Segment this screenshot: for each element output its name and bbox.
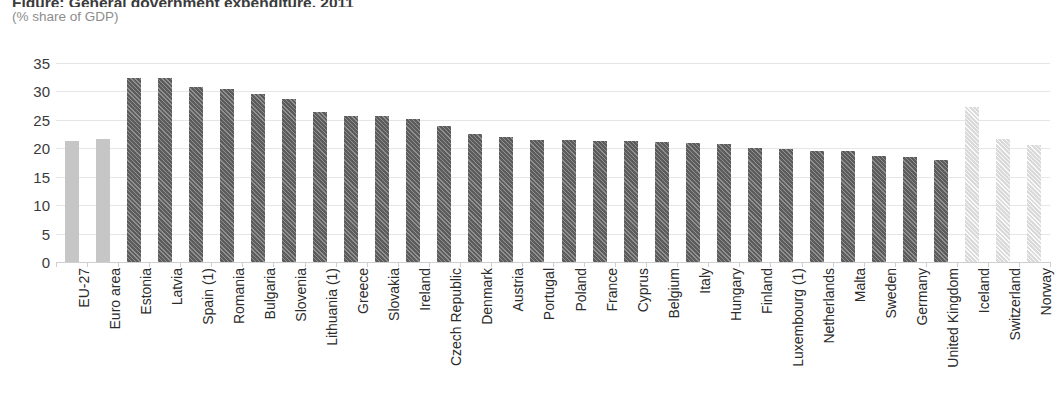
x-tickmark [895,262,896,267]
x-tickmark [802,262,803,267]
x-axis-label-text: Switzerland [1008,268,1022,340]
x-axis-label-text: Norway [1039,268,1053,315]
bar [810,151,824,262]
x-tickmark [149,262,150,267]
x-tickmark [305,262,306,267]
bar [282,99,296,262]
bar [313,112,327,262]
x-axis-label-text: Euro area [108,268,122,329]
x-axis-label: Slovenia [294,268,308,322]
y-tick-label-25: 25 [4,112,50,127]
x-axis-label: Portugal [542,268,556,320]
x-tickmark [522,262,523,267]
x-axis-label-text: Finland [760,268,774,314]
x-axis-label: Czech Republic [449,268,463,366]
x-axis-label: Norway [1039,268,1053,315]
y-tick-label-30: 30 [4,84,50,99]
x-axis-label-text: Portugal [542,268,556,320]
x-tickmark [273,262,274,267]
x-axis-label-text: Czech Republic [449,268,463,366]
x-axis-label-text: Luxembourg (1) [791,268,805,367]
x-axis-label: Finland [760,268,774,314]
bar [624,141,638,262]
x-axis-label-text: Italy [698,268,712,294]
x-tickmark [988,262,989,267]
x-axis-label: Euro area [108,268,122,329]
x-axis-label: Austria [511,268,525,312]
x-tickmark [367,262,368,267]
x-axis-label: Hungary [729,268,743,321]
x-axis-label-text: Ireland [418,268,432,311]
x-axis-label-text: Estonia [139,268,153,315]
bar [406,119,420,262]
x-tickmark [926,262,927,267]
x-tickmark [833,262,834,267]
x-tickmark [677,262,678,267]
y-tick-label-35: 35 [4,56,50,71]
x-axis-label: Denmark [480,268,494,325]
x-axis-label: United Kingdom [946,268,960,368]
x-tickmark [336,262,337,267]
x-axis-label-text: Malta [853,268,867,302]
y-tick-label-20: 20 [4,141,50,156]
bar [375,116,389,262]
bar [717,144,731,262]
x-tickmark [242,262,243,267]
x-axis-label: Cyprus [636,268,650,312]
y-tick-label-5: 5 [4,226,50,241]
y-axis: 05101520253035 [0,63,50,262]
x-tickmark [118,262,119,267]
bar [189,87,203,262]
chart-subtitle: (% share of GDP) [12,9,1012,25]
bar [220,89,234,262]
x-axis-label-text: Poland [574,268,588,312]
y-tick-label-0: 0 [4,255,50,270]
x-axis-label-text: United Kingdom [946,268,960,368]
x-axis-label: EU-27 [77,268,91,308]
x-axis-label: France [605,268,619,312]
bar [344,116,358,262]
x-tickmark [708,262,709,267]
x-tickmark [56,262,57,267]
x-axis-label: Bulgaria [263,268,277,319]
x-tickmark [739,262,740,267]
bar [437,126,451,262]
x-axis-label-text: Greece [356,268,370,314]
bar [996,139,1010,262]
bar [65,141,79,262]
x-axis-label-text: France [605,268,619,312]
x-axis-label: Germany [915,268,929,326]
x-axis-label: Iceland [977,268,991,313]
bar-chart: Figure: General government expenditure, … [0,0,1060,410]
x-tickmark [1050,262,1051,267]
bar [530,140,544,262]
chart-title-block: Figure: General government expenditure, … [12,0,1012,25]
bar [872,156,886,262]
x-tickmark [211,262,212,267]
x-tickmark [87,262,88,267]
bar [965,107,979,262]
x-tickmark [180,262,181,267]
x-axis-label-text: Iceland [977,268,991,313]
x-tickmark [1019,262,1020,267]
x-tickmark [429,262,430,267]
x-axis-label-text: Germany [915,268,929,326]
x-axis-label: Poland [574,268,588,312]
x-axis-label-text: Romania [232,268,246,324]
x-axis-label-text: Austria [511,268,525,312]
x-axis-label-text: EU-27 [77,268,91,308]
bar [655,142,669,262]
y-tick-label-15: 15 [4,169,50,184]
x-axis-label: Italy [698,268,712,294]
x-tickmark [646,262,647,267]
bar [158,78,172,262]
x-axis-label: Latvia [170,268,184,305]
x-axis-label-text: Bulgaria [263,268,277,319]
x-axis-label: Romania [232,268,246,324]
x-tickmark [460,262,461,267]
x-axis-label-text: Slovenia [294,268,308,322]
x-axis-label: Belgium [667,268,681,319]
x-axis-label: Netherlands [822,268,836,344]
x-axis-label: Estonia [139,268,153,315]
x-axis-label-text: Netherlands [822,268,836,344]
